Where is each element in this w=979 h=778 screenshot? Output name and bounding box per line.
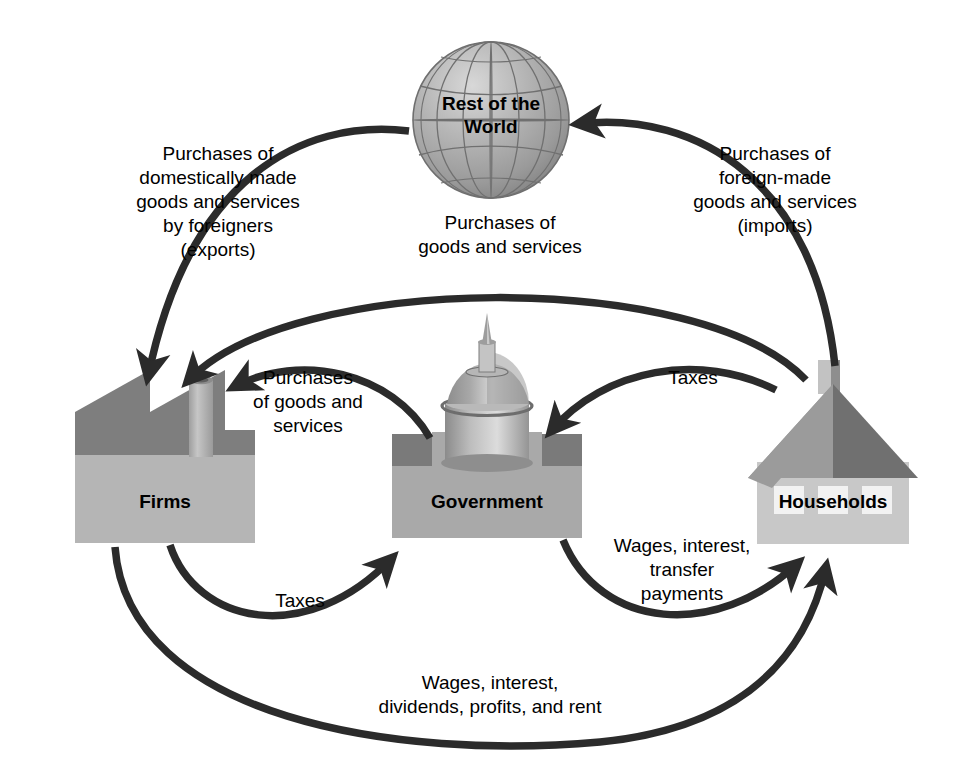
flow-label-taxes-firms: Taxes (245, 589, 355, 613)
node-label-households: Households (758, 490, 908, 513)
node-label-rest-of-world: Rest of the World (416, 92, 566, 138)
flow-label-transfers: Wages, interest, transfer payments (592, 534, 772, 606)
circular-flow-diagram: Rest of the World Firms Government House… (0, 0, 979, 778)
node-label-government: Government (412, 490, 562, 513)
flow-label-government-purchases: Purchases of goods and services (228, 366, 388, 438)
flow-label-imports: Purchases of foreign-made goods and serv… (660, 142, 890, 238)
flow-label-exports: Purchases of domestically made goods and… (108, 142, 328, 262)
flow-label-factor-income: Wages, interest, dividends, profits, and… (330, 671, 650, 719)
flow-label-taxes-households: Taxes (638, 366, 748, 390)
flow-label-household-purchases: Purchases of goods and services (390, 211, 610, 259)
node-label-firms: Firms (90, 490, 240, 513)
